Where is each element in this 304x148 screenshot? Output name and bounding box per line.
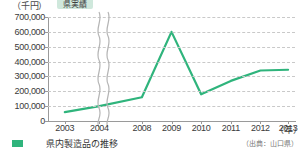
caption-marker-icon (12, 140, 23, 147)
x-axis-tick-label: 2010 (192, 123, 211, 133)
x-axis-tick-label: 2004 (90, 123, 109, 133)
legend-badge: 県実績 (57, 0, 93, 9)
legend-label: 県実績 (63, 0, 87, 9)
x-axis-tick (99, 121, 100, 124)
caption-row: 県内製造品の推移 （出典：山口県） (0, 137, 304, 148)
axis-break-squiggle (92, 12, 118, 127)
x-axis-tick-label: 2009 (162, 123, 181, 133)
gridline (48, 62, 295, 63)
x-axis-tick-label: 2008 (132, 123, 151, 133)
x-axis-tick (142, 121, 143, 124)
x-axis-tick (231, 121, 232, 124)
y-axis-tick (45, 121, 48, 122)
gridline (48, 76, 295, 77)
x-axis-tick (65, 121, 66, 124)
gridline (48, 32, 295, 33)
y-axis-tick-label: 300,000 (15, 71, 45, 81)
x-axis-tick-label: 2012 (251, 123, 270, 133)
gridline (48, 17, 295, 18)
gridline (48, 47, 295, 48)
gridline (48, 91, 295, 92)
x-axis-tick (201, 121, 202, 124)
y-axis-unit-label: （千円） (12, 0, 47, 12)
x-axis-tick (260, 121, 261, 124)
y-axis-tick-label: 100,000 (15, 101, 45, 111)
x-axis-tick-label: 2011 (222, 123, 240, 133)
y-axis-tick-label: 700,000 (15, 12, 45, 22)
y-axis-tick (45, 62, 48, 63)
y-axis-tick-label: 200,000 (15, 86, 45, 96)
y-axis-tick-label: 500,000 (15, 42, 45, 52)
caption-source: （出典：山口県） (242, 138, 298, 148)
y-axis-tick (45, 76, 48, 77)
x-axis-tick-label: 2003 (55, 123, 74, 133)
x-axis-tick (288, 121, 289, 124)
y-axis-tick-label: 600,000 (15, 27, 45, 37)
x-axis-labels: （年） 20032004200820092010201120122013 (0, 123, 304, 137)
y-axis-labels: 0100,000200,000300,000400,000500,000600,… (0, 17, 45, 122)
y-axis-tick-label: 400,000 (15, 57, 45, 67)
y-axis-tick (45, 47, 48, 48)
y-axis-tick (45, 32, 48, 33)
chart-container: （千円） 県実績 0100,000200,000300,000400,00050… (0, 0, 304, 148)
gridline (48, 106, 295, 107)
x-axis-tick-label: 2013 (279, 123, 298, 133)
y-axis-tick (45, 91, 48, 92)
x-axis-tick (172, 121, 173, 124)
y-axis-tick (45, 106, 48, 107)
caption-title: 県内製造品の推移 (46, 137, 118, 148)
y-axis-tick (45, 17, 48, 18)
plot-area (48, 17, 295, 121)
